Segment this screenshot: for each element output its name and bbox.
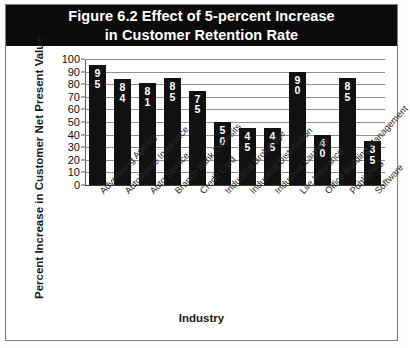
y-tick-label: 80 xyxy=(68,78,80,90)
y-tick-label: 90 xyxy=(68,66,80,78)
y-tick-mark xyxy=(81,147,85,148)
bar-value-label: 45 xyxy=(239,131,256,152)
bar: 95 xyxy=(89,65,106,185)
figure-title-line-2: in Customer Retention Rate xyxy=(68,26,335,45)
y-tick-label: 40 xyxy=(68,129,80,141)
y-tick-label: 100 xyxy=(62,53,80,65)
y-tick-mark xyxy=(81,109,85,110)
y-tick-label: 50 xyxy=(68,116,80,128)
y-tick-mark xyxy=(81,159,85,160)
figure-title-banner: Figure 6.2 Effect of 5-percent Increase … xyxy=(6,5,397,46)
y-tick-label: 0 xyxy=(74,179,80,191)
bar-value-label: 75 xyxy=(189,94,206,115)
x-axis-title: Industry xyxy=(6,312,397,324)
y-tick-mark xyxy=(81,96,85,97)
figure-title-line-1: Figure 6.2 Effect of 5-percent Increase xyxy=(68,8,335,24)
y-tick-mark xyxy=(81,185,85,186)
y-tick-label: 70 xyxy=(68,91,80,103)
y-tick-label: 30 xyxy=(68,141,80,153)
y-tick-label: 20 xyxy=(68,154,80,166)
y-tick-mark xyxy=(81,134,85,135)
y-tick-label: 10 xyxy=(68,166,80,178)
bar-value-label: 90 xyxy=(289,75,306,96)
figure-title: Figure 6.2 Effect of 5-percent Increase … xyxy=(48,7,355,44)
gridline xyxy=(85,72,385,73)
y-tick-mark xyxy=(81,122,85,123)
y-tick-mark xyxy=(81,172,85,173)
y-tick-mark xyxy=(81,71,85,72)
gridline xyxy=(85,59,385,60)
y-tick-mark xyxy=(81,59,85,60)
bar-value-label: 95 xyxy=(89,68,106,89)
bar-value-label: 85 xyxy=(339,81,356,102)
y-tick-mark xyxy=(81,84,85,85)
bar-value-label: 81 xyxy=(139,86,156,107)
y-tick-label: 60 xyxy=(68,103,80,115)
bar-value-label: 85 xyxy=(164,81,181,102)
bar-value-label: 84 xyxy=(114,82,131,103)
y-axis-title: Percent Increase in Customer Net Present… xyxy=(33,49,45,299)
